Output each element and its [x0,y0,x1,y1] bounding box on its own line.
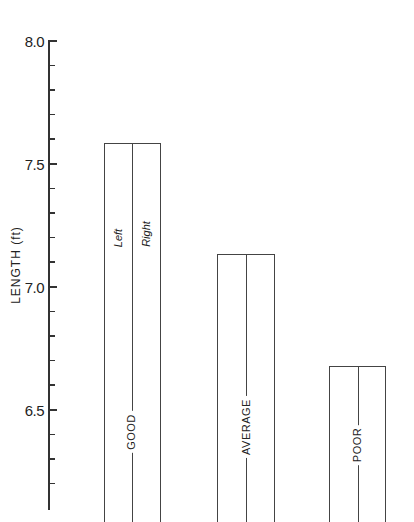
y-tick-minor [48,335,55,337]
category-label-good: GOOD [125,411,137,453]
y-tick-label: 8.0 [25,33,44,50]
y-tick-minor [48,384,55,386]
bar-left-label: Left [112,229,124,247]
category-label-poor: POOR [351,425,363,465]
bar-divider [132,144,133,522]
category-label-average: AVERAGE [240,396,252,458]
y-tick-label: 6.5 [25,402,44,419]
y-tick-minor [48,483,55,485]
y-tick-minor [48,212,55,214]
y-tick-minor [48,237,55,239]
y-tick-label: 7.5 [25,156,44,173]
bar-right-label: Right [140,221,152,247]
y-tick-minor [48,138,55,140]
y-tick-minor [48,114,55,116]
y-tick-minor [48,458,55,460]
bar-good [104,143,161,522]
y-tick-major [48,40,57,42]
y-tick-minor [48,89,55,91]
y-axis-line [48,40,50,510]
y-tick-minor [48,65,55,67]
bar-divider [246,255,247,522]
y-tick-minor [48,261,55,263]
y-tick-major [48,163,57,165]
bar-average [217,254,275,522]
y-tick-minor [48,188,55,190]
y-axis-title: LENGTH (ft) [9,226,23,304]
y-tick-minor [48,311,55,313]
y-tick-minor [48,434,55,436]
y-tick-label: 7.0 [25,279,44,296]
y-tick-minor [48,360,55,362]
y-tick-major [48,409,57,411]
y-tick-major [48,286,57,288]
